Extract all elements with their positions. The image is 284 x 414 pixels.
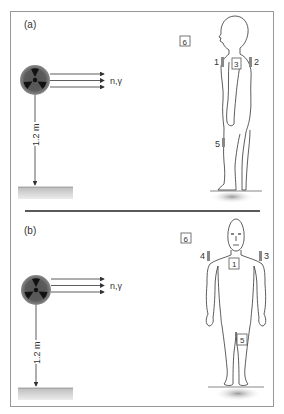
dosimeter-6-label: 6 [183,38,188,47]
dosimeter-5 [222,138,225,147]
radiation-arrows [51,279,104,292]
dosimeter-3 [259,251,262,261]
dosimeter-3-label: 3 [234,60,239,69]
dosimeter-1 [221,57,224,67]
panel-a: (a) n,γ 1.2 m 6 [18,16,262,204]
ground-plane [18,388,73,400]
dosimeter-2 [249,57,252,67]
dosimeter-5-label: 5 [240,336,245,345]
panel-b-label: (b) [24,225,36,236]
figure-frame [11,12,274,407]
radiation-label: n,γ [110,281,123,291]
dosimeter-1-label: 1 [214,57,219,67]
dosimeter-4-label: 4 [200,251,205,261]
panel-b: (b) n,γ 1.2 m 6 [18,219,269,402]
radiation-label: n,γ [110,76,123,86]
ground-plane [18,187,73,199]
panel-a-label: (a) [24,19,36,30]
dosimeter-3-label: 3 [264,251,269,261]
dosimeter-1-label: 1 [232,260,237,269]
dosimeter-6-label: 6 [184,235,189,244]
height-label: 1.2 m [31,123,41,146]
radiation-source-icon [20,65,50,95]
floor-shadow [212,192,252,204]
floor-shadow [216,388,260,402]
dosimeter-5-label: 5 [215,139,220,149]
dosimeter-4 [207,251,210,261]
radiation-arrows [50,74,104,87]
height-label: 1.2 m [32,341,42,364]
radiation-source-icon [21,275,51,305]
human-figure-front [206,219,266,386]
human-figure-side [218,16,251,190]
dosimeter-2-label: 2 [254,57,259,67]
figure-canvas: (a) n,γ 1.2 m 6 [0,0,284,414]
